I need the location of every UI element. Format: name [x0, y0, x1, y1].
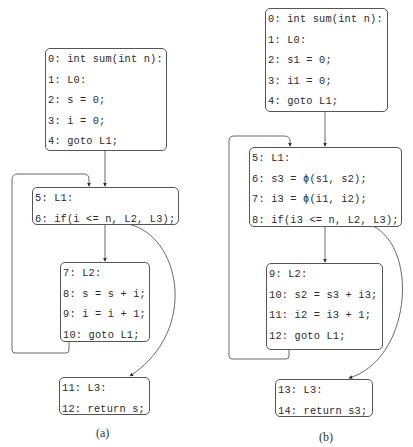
- code-line: 11: L3:: [62, 380, 149, 401]
- code-line: 0: int sum(int n):: [48, 51, 166, 72]
- code-line: 3: i1 = 0;: [268, 73, 387, 94]
- caption-a: (a): [96, 426, 109, 441]
- panel-b-block-3: 13: L3: 14: return s3;: [275, 379, 373, 417]
- code-line: 2: s = 0;: [48, 92, 166, 113]
- code-line: 6: s3 = ϕ(s1, s2);: [252, 171, 401, 192]
- code-line: 14: return s3;: [278, 403, 372, 424]
- code-line: 1: L0:: [268, 32, 387, 53]
- panel-a-block-2: 7: L2: 8: s = s + i; 9: i = i + 1; 10: g…: [60, 262, 150, 342]
- panel-a-block-1: 5: L1: 6: if(i <= n, L2, L3);: [32, 187, 179, 225]
- panel-a-block-3: 11: L3: 12: return s;: [59, 377, 150, 415]
- code-line: 9: L2:: [269, 266, 382, 287]
- code-line: 2: s1 = 0;: [268, 52, 387, 73]
- code-line: 7: i3 = ϕ(i1, i2);: [252, 191, 401, 212]
- code-line: 4: goto L1;: [48, 133, 166, 154]
- code-line: 8: s = s + i;: [63, 286, 149, 307]
- code-line: 5: L1:: [35, 190, 178, 211]
- code-line: 11: i2 = i3 + 1;: [269, 307, 382, 328]
- caption-b: (b): [319, 430, 333, 445]
- code-line: 7: L2:: [63, 265, 149, 286]
- code-line: 1: L0:: [48, 72, 166, 93]
- code-line: 0: int sum(int n):: [268, 11, 387, 32]
- code-line: 9: i = i + 1;: [63, 306, 149, 327]
- code-line: 6: if(i <= n, L2, L3);: [35, 211, 178, 232]
- panel-b-block-1: 5: L1: 6: s3 = ϕ(s1, s2); 7: i3 = ϕ(i1, …: [249, 147, 402, 227]
- code-line: 4: goto L1;: [268, 93, 387, 114]
- code-line: 8: if(i3 <= n, L2, L3);: [252, 212, 401, 233]
- panel-b-block-2: 9: L2: 10: s2 = s3 + i3; 11: i2 = i3 + 1…: [266, 263, 383, 350]
- code-line: 12: return s;: [62, 401, 149, 422]
- code-line: 3: i = 0;: [48, 113, 166, 134]
- code-line: 12: goto L1;: [269, 328, 382, 349]
- code-line: 10: s2 = s3 + i3;: [269, 287, 382, 308]
- code-line: 5: L1:: [252, 150, 401, 171]
- panel-a-block-0: 0: int sum(int n): 1: L0: 2: s = 0; 3: i…: [45, 48, 167, 151]
- code-line: 10: goto L1;: [63, 327, 149, 348]
- code-line: 13: L3:: [278, 382, 372, 403]
- panel-b-block-0: 0: int sum(int n): 1: L0: 2: s1 = 0; 3: …: [265, 8, 388, 112]
